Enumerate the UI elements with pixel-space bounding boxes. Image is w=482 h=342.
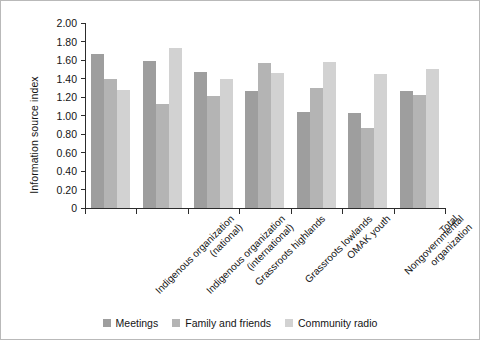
bar[interactable] bbox=[374, 74, 387, 208]
bar-group bbox=[342, 23, 393, 208]
bar[interactable] bbox=[220, 79, 233, 208]
bar[interactable] bbox=[245, 91, 258, 208]
bar-group bbox=[85, 23, 136, 208]
y-axis-tick: 1.00 bbox=[57, 110, 85, 122]
bar[interactable] bbox=[400, 91, 413, 208]
y-axis-tick-label: 2.00 bbox=[57, 17, 81, 29]
y-axis-tick: 2.00 bbox=[57, 17, 85, 29]
y-axis-tick: 1.80 bbox=[57, 36, 85, 48]
bar[interactable] bbox=[271, 73, 284, 208]
bar[interactable] bbox=[104, 79, 117, 209]
y-axis-tick-label: 1.20 bbox=[57, 91, 81, 103]
legend-item[interactable]: Community radio bbox=[285, 317, 377, 329]
y-axis-tick-label: 0.20 bbox=[57, 184, 81, 196]
legend-label: Family and friends bbox=[185, 317, 271, 329]
bar[interactable] bbox=[207, 96, 220, 208]
legend-label: Meetings bbox=[116, 317, 159, 329]
y-axis-tick: 0.20 bbox=[57, 184, 85, 196]
bar[interactable] bbox=[258, 63, 271, 208]
y-axis-tick-label: 0.60 bbox=[57, 147, 81, 159]
y-axis-tick: 0 bbox=[71, 202, 85, 214]
legend-swatch-icon bbox=[285, 319, 293, 327]
bar[interactable] bbox=[194, 72, 207, 208]
y-axis-tick-label: 1.40 bbox=[57, 73, 81, 85]
bar-groups bbox=[85, 23, 445, 208]
bar-group bbox=[394, 23, 445, 208]
bar[interactable] bbox=[413, 95, 426, 208]
bar[interactable] bbox=[361, 128, 374, 208]
bar-group bbox=[291, 23, 342, 208]
y-axis-tick: 0.80 bbox=[57, 128, 85, 140]
bar[interactable] bbox=[297, 112, 310, 208]
y-axis-tick: 0.60 bbox=[57, 147, 85, 159]
bar-group bbox=[239, 23, 290, 208]
chart-legend: MeetingsFamily and friendsCommunity radi… bbox=[1, 317, 479, 329]
legend-swatch-icon bbox=[172, 319, 180, 327]
bar[interactable] bbox=[348, 113, 361, 208]
chart-figure: Information source index 2.001.801.601.4… bbox=[0, 0, 480, 340]
y-axis-tick-label: 1.80 bbox=[57, 36, 81, 48]
y-axis-tick-label: 0 bbox=[71, 202, 81, 214]
y-axis-tick-label: 0.80 bbox=[57, 128, 81, 140]
bar[interactable] bbox=[426, 69, 439, 208]
y-axis-tick-label: 1.60 bbox=[57, 54, 81, 66]
bar[interactable] bbox=[310, 88, 323, 208]
bar[interactable] bbox=[323, 62, 336, 208]
legend-label: Community radio bbox=[298, 317, 377, 329]
bar[interactable] bbox=[156, 104, 169, 208]
bar[interactable] bbox=[143, 61, 156, 208]
bar[interactable] bbox=[169, 48, 182, 208]
x-axis-category-label: Nongovernmentalorganization bbox=[402, 213, 474, 285]
legend-swatch-icon bbox=[103, 319, 111, 327]
bar[interactable] bbox=[91, 54, 104, 208]
bar-group bbox=[136, 23, 187, 208]
y-axis-title: Information source index bbox=[28, 40, 40, 230]
x-axis-labels: Indigenous organization(national)Indigen… bbox=[85, 213, 446, 309]
legend-item[interactable]: Meetings bbox=[103, 317, 159, 329]
y-axis-tick: 1.20 bbox=[57, 91, 85, 103]
y-axis-tick-label: 1.00 bbox=[57, 110, 81, 122]
legend-item[interactable]: Family and friends bbox=[172, 317, 271, 329]
y-axis-tick-label: 0.40 bbox=[57, 165, 81, 177]
bar-group bbox=[188, 23, 239, 208]
bar[interactable] bbox=[117, 90, 130, 208]
plot-area: 2.001.801.601.401.201.000.800.600.400.20… bbox=[85, 23, 445, 208]
y-axis-tick: 0.40 bbox=[57, 165, 85, 177]
y-axis-tick: 1.60 bbox=[57, 54, 85, 66]
y-axis-tick: 1.40 bbox=[57, 73, 85, 85]
